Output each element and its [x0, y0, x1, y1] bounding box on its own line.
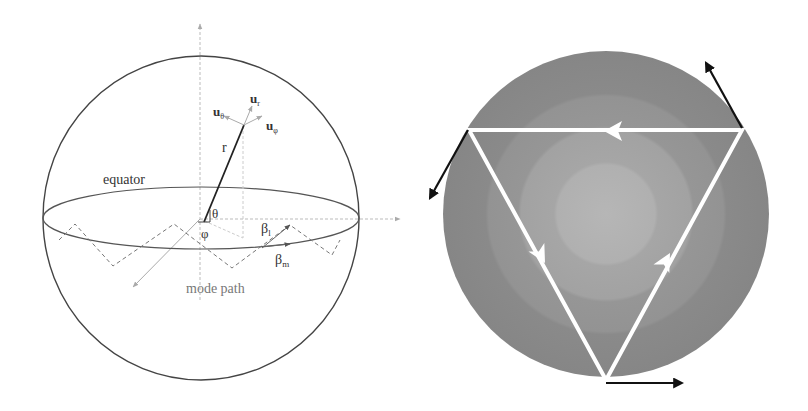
disk-diagram — [430, 51, 769, 383]
label-theta: θ — [212, 206, 218, 221]
label-u-phi: uφ — [266, 118, 278, 135]
label-u-r: ur — [250, 91, 260, 108]
label-equator: equator — [103, 172, 145, 187]
sphere-outline — [43, 56, 359, 380]
label-beta-m: βm — [275, 252, 289, 269]
y-axis — [133, 219, 200, 287]
label-phi: φ — [201, 226, 209, 241]
label-beta-l: βl — [261, 221, 271, 238]
label-mode-path: mode path — [186, 281, 245, 296]
concentric-disk — [443, 51, 769, 377]
mode-path-zigzag — [59, 224, 340, 268]
sphere-diagram: uθ ur uφ r equator θ φ βl βm mode path — [43, 24, 400, 380]
figure-canvas: uθ ur uφ r equator θ φ βl βm mode path — [0, 0, 808, 411]
label-r: r — [222, 140, 227, 155]
label-u-theta: uθ — [213, 104, 224, 121]
u-theta-vector — [224, 116, 244, 125]
